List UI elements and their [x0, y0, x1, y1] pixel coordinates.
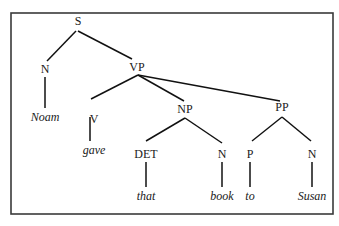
- node-label-n3: N: [308, 147, 317, 161]
- edge-pp-p: [252, 117, 282, 141]
- tree-nodes: SNVPNoamVNPPPgaveDETNPNthatbooktoSusan: [30, 14, 327, 203]
- leaf-word-noam: Noam: [30, 110, 60, 124]
- node-label-vp: VP: [129, 60, 145, 74]
- syntax-tree-diagram: SNVPNoamVNPPPgaveDETNPNthatbooktoSusan: [0, 0, 339, 226]
- node-label-p: P: [247, 147, 254, 161]
- leaf-word-book: book: [210, 189, 234, 203]
- edge-pp-n3: [282, 117, 311, 141]
- node-label-np: NP: [177, 102, 193, 116]
- leaf-word-that: that: [137, 189, 156, 203]
- node-label-n1: N: [41, 62, 50, 76]
- node-label-det: DET: [134, 147, 158, 161]
- edge-s-vp: [78, 31, 132, 59]
- node-label-v: V: [90, 112, 99, 126]
- edge-np-det: [146, 118, 185, 141]
- edge-vp-v: [91, 75, 138, 99]
- leaf-word-to: to: [245, 189, 254, 203]
- edge-vp-pp: [138, 75, 280, 101]
- node-label-pp: PP: [275, 100, 289, 114]
- edge-np-n2: [185, 118, 222, 143]
- node-label-s: S: [75, 14, 82, 28]
- node-label-n2: N: [218, 147, 227, 161]
- edge-s-n1: [47, 31, 76, 61]
- leaf-word-susan: Susan: [298, 189, 327, 203]
- leaf-word-gave: gave: [83, 143, 106, 157]
